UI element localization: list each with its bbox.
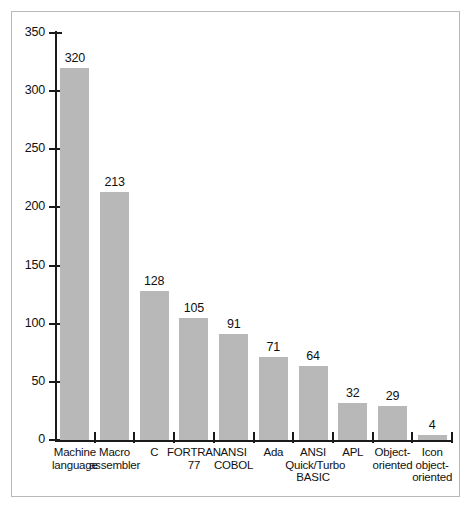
y-axis-tick-label: 150 [1,259,45,271]
x-axis-category-label: Icon object- oriented [404,446,460,484]
bar-value-label: 32 [333,387,373,400]
bar[interactable] [140,291,169,440]
bar[interactable] [219,334,248,440]
bar[interactable] [299,366,328,440]
bar-value-label: 29 [373,390,413,403]
bar-value-label: 64 [293,350,333,363]
y-axis-tick-label-wrap: 350 [0,26,45,38]
y-axis-tick-label: 250 [1,142,45,154]
bar-value-label: 213 [95,176,135,189]
y-axis-tick-label: 50 [1,375,45,387]
bar-value-label: 91 [214,318,254,331]
y-axis-tick-label-wrap: 0 [0,433,45,445]
y-axis-tick-label-wrap: 200 [0,200,45,212]
bar[interactable] [60,68,89,440]
y-axis-tick-label: 100 [1,317,45,329]
y-axis-tick-label-wrap: 100 [0,317,45,329]
y-axis-tick-label-wrap: 300 [0,84,45,96]
bar-value-label: 105 [174,302,214,315]
y-axis-tick-label: 300 [1,84,45,96]
bar[interactable] [179,318,208,440]
y-axis-tick-label-wrap: 250 [0,142,45,154]
y-axis-tick-label-wrap: 50 [0,375,45,387]
bar[interactable] [418,435,447,440]
y-axis-tick-label: 0 [1,433,45,445]
y-axis-tick-label: 200 [1,200,45,212]
bar[interactable] [378,406,407,440]
plot-area [55,33,452,440]
bar-value-label: 320 [55,52,95,65]
bar[interactable] [259,357,288,440]
bar[interactable] [100,192,129,440]
y-axis-tick-label-wrap: 150 [0,259,45,271]
bar-value-label: 71 [254,341,294,354]
bar[interactable] [338,403,367,440]
bar-value-label: 4 [412,419,452,432]
bar-value-label: 128 [134,275,174,288]
y-axis-tick-label: 350 [1,26,45,38]
